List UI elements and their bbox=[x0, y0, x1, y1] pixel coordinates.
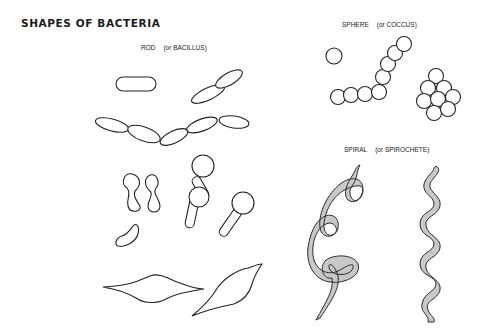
streptobacillus-chain-icon bbox=[94, 114, 250, 149]
club-rod-icon bbox=[184, 155, 254, 238]
staphylococcus-cluster-icon bbox=[417, 69, 461, 121]
bacteria-illustration bbox=[0, 0, 479, 328]
curved-rod-icon bbox=[116, 174, 160, 247]
sphere-bacteria bbox=[326, 37, 461, 121]
fusiform-rod-icon bbox=[103, 264, 262, 316]
diplobacillus-icon bbox=[189, 66, 245, 107]
spiral-bacteria bbox=[308, 165, 440, 322]
rod-bacteria bbox=[94, 66, 262, 316]
single-coccus-icon bbox=[326, 48, 342, 64]
single-rod-icon bbox=[116, 77, 156, 91]
streptococcus-chain-icon bbox=[331, 37, 412, 105]
spiral-wavy-icon bbox=[420, 166, 440, 322]
spiral-coiled-icon bbox=[308, 165, 363, 320]
